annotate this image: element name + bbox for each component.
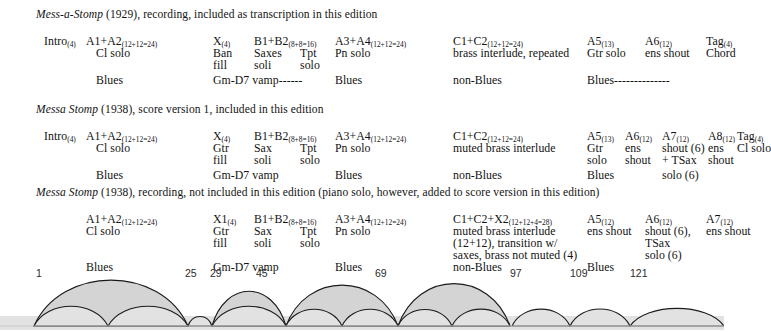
arc-diagram-svg xyxy=(0,264,724,332)
arc-measure-label: 97 xyxy=(510,268,522,279)
form-cell-label: Intro xyxy=(44,129,67,143)
form-cell: Blues-------------- xyxy=(587,75,670,87)
form-cell: Pn solo xyxy=(335,226,370,238)
block-header: Messa Stomp (1938), score version 1, inc… xyxy=(36,103,324,115)
arc-lower xyxy=(512,309,570,326)
arc-measure-label: 121 xyxy=(630,268,648,279)
form-cell-label: Cl solo xyxy=(737,141,771,155)
form-cell-subscript: (12+12=24) xyxy=(371,135,406,144)
block-header-title: Messa Stomp xyxy=(36,186,98,198)
form-cell: solo xyxy=(300,60,320,72)
form-cell-label: brass interlude, repeated xyxy=(453,46,569,60)
form-cell: ens shout xyxy=(706,226,751,238)
arc-measure-label: 1 xyxy=(36,268,42,279)
form-cell-label: shout xyxy=(625,153,651,167)
form-cell-subscript: (4) xyxy=(67,135,76,144)
form-cell-label: ens shout xyxy=(645,46,690,60)
arc-lower xyxy=(570,309,630,326)
form-cell: Pn solo xyxy=(335,143,370,155)
form-cell-label: soli xyxy=(254,153,271,167)
form-cell: Gtr solo xyxy=(587,48,626,60)
block-header-rest: (1929), recording, included as transcrip… xyxy=(103,8,377,20)
form-cell-label: Pn solo xyxy=(335,141,370,155)
form-cell: Gm-D7 vamp xyxy=(213,170,279,182)
form-cell-label: solo xyxy=(300,58,320,72)
form-cell-label: muted brass interlude xyxy=(453,141,556,155)
form-cell-label: Gtr solo xyxy=(587,46,626,60)
arc-diagram: 12529456997109121 xyxy=(0,264,724,332)
form-cell: non-Blues xyxy=(453,75,502,87)
form-cell: muted brass interlude xyxy=(453,143,556,155)
form-cell: Blues xyxy=(587,170,614,182)
form-cell-label: Gm-D7 vamp------ xyxy=(213,73,303,87)
form-cell: Intro(4) xyxy=(44,131,76,143)
form-cell: solo (6) xyxy=(662,170,699,182)
form-cell: Pn solo xyxy=(335,48,370,60)
form-cell-label: solo (6) xyxy=(645,248,682,262)
form-cell-subscript: (12) xyxy=(723,135,735,144)
arc-measure-label: 29 xyxy=(210,268,222,279)
arc-measure-label: 69 xyxy=(375,268,387,279)
form-cell-label: fill xyxy=(213,153,227,167)
form-cell-label: Blues xyxy=(335,168,362,182)
block-header-rest: (1938), recording, not included in this … xyxy=(98,186,599,198)
form-cell-label: soli xyxy=(254,58,271,72)
form-cell-label: non-Blues xyxy=(453,73,502,87)
form-cell-label: non-Blues xyxy=(453,168,502,182)
arc-lower xyxy=(630,308,724,326)
form-cell-label: + TSax xyxy=(662,153,697,167)
form-cell: ens shout xyxy=(645,48,690,60)
form-cell-label: Gm-D7 vamp xyxy=(213,168,279,182)
form-cell: Blues xyxy=(335,75,362,87)
block-header-rest: (1938), score version 1, included in thi… xyxy=(98,103,323,115)
form-cell-label: solo (6) xyxy=(662,168,699,182)
form-cell-label: Cl solo xyxy=(96,46,130,60)
form-cell-label: solo xyxy=(300,153,320,167)
form-cell-label: soli xyxy=(254,236,271,250)
form-cell: fill xyxy=(213,60,227,72)
form-cell: fill xyxy=(213,238,227,250)
form-cell-label: Blues-------------- xyxy=(587,73,670,87)
form-cell: brass interlude, repeated xyxy=(453,48,569,60)
form-cell-label: solo xyxy=(300,236,320,250)
form-cell-subscript: (4) xyxy=(67,40,76,49)
form-cell: ens shout xyxy=(587,226,632,238)
form-cell-label: fill xyxy=(213,236,227,250)
form-cell-label: ens shout xyxy=(706,224,751,238)
form-cell-label: Cl solo xyxy=(86,224,120,238)
form-cell-label: fill xyxy=(213,58,227,72)
arc-measure-label: 109 xyxy=(570,268,588,279)
block-header: Messa Stomp (1938), recording, not inclu… xyxy=(36,186,600,198)
form-cell: solo xyxy=(300,155,320,167)
form-cell: Intro(4) xyxy=(44,36,76,48)
form-cell: solo xyxy=(300,238,320,250)
form-cell-label: Blues xyxy=(587,168,614,182)
form-cell: Chord xyxy=(706,48,736,60)
form-cell: Blues xyxy=(335,170,362,182)
form-cell-label: Cl solo xyxy=(96,141,130,155)
form-cell: soli xyxy=(254,60,271,72)
form-cell: + TSax xyxy=(662,155,697,167)
form-cell: Gm-D7 vamp------ xyxy=(213,75,303,87)
form-cell: non-Blues xyxy=(453,170,502,182)
arc-measure-label: 25 xyxy=(185,268,197,279)
form-cell: Cl solo xyxy=(86,226,120,238)
form-cell-subscript: (12+12=24) xyxy=(371,40,406,49)
form-cell-label: Intro xyxy=(44,34,67,48)
form-cell-label: Blues xyxy=(96,73,123,87)
form-cell: solo xyxy=(587,155,607,167)
form-cell-label: Pn solo xyxy=(335,224,370,238)
arc-measure-label: 45 xyxy=(256,268,268,279)
form-cell-label: Blues xyxy=(96,168,123,182)
form-cell-subscript: (12+12=24) xyxy=(371,218,406,227)
form-cell-subscript: (12+12=24) xyxy=(122,218,157,227)
form-cell: soli xyxy=(254,238,271,250)
form-cell-label: Chord xyxy=(706,46,736,60)
form-cell-label: solo xyxy=(587,153,607,167)
form-cell-label: Blues xyxy=(335,73,362,87)
form-cell: Cl solo xyxy=(96,143,130,155)
form-cell: Cl solo xyxy=(737,143,771,155)
form-cell-label: shout xyxy=(708,153,734,167)
form-cell-label: Pn solo xyxy=(335,46,370,60)
